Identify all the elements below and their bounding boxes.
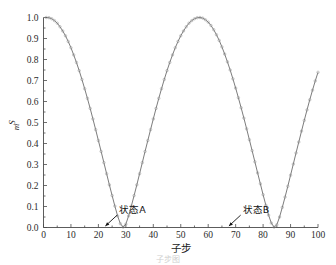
y-tick-label: 0.2 (27, 181, 39, 191)
x-tick-label: 90 (286, 230, 296, 240)
x-tick-label: 30 (121, 230, 131, 240)
y-tick-label: 0.1 (27, 202, 39, 212)
x-tick-label: 50 (176, 230, 186, 240)
y-tick-label: 0.8 (27, 55, 39, 65)
annotation-label-state-b: 状态B (243, 204, 270, 215)
x-tick-label: 0 (41, 230, 46, 240)
y-tick-label: 0.5 (27, 118, 39, 128)
y-axis-title-subscript: m (11, 123, 21, 130)
x-tick-label: 60 (203, 230, 213, 240)
x-tick-label: 20 (94, 230, 104, 240)
x-tick-label: 70 (231, 230, 241, 240)
line-chart: 0.00.10.20.30.40.50.60.70.80.91.0 010203… (0, 0, 336, 265)
y-tick-label: 0.6 (27, 97, 39, 107)
annotation-label-state-a: 状态A (119, 204, 146, 215)
x-tick-label: 40 (149, 230, 159, 240)
y-tick-label: 1.0 (27, 13, 39, 23)
y-tick-label: 0.7 (27, 76, 39, 86)
y-tick-label: 0.4 (27, 139, 39, 149)
x-tick-label: 100 (311, 230, 326, 240)
figure-caption: 子步图 (156, 255, 180, 264)
y-tick-label: 0.9 (27, 34, 39, 44)
chart-figure: 0.00.10.20.30.40.50.60.70.80.91.0 010203… (0, 0, 336, 265)
y-tick-label: 0.3 (27, 160, 39, 170)
x-tick-label: 80 (258, 230, 268, 240)
y-tick-label: 0.0 (27, 223, 39, 233)
x-tick-label: 10 (66, 230, 76, 240)
x-axis-title: 子步 (171, 242, 191, 254)
chart-background (0, 0, 336, 265)
